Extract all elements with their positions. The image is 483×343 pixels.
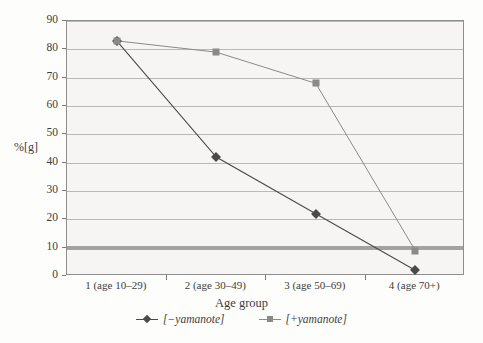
chart-legend: [−yamanote] [+yamanote] [0,313,483,325]
y-axis-label: %[g] [14,140,38,155]
square-marker-icon [259,315,281,324]
series-lines [67,21,465,276]
scan-artifact [8,332,308,340]
x-tick-label-3: 3 (age 50–69) [265,279,365,291]
series-line-2 [117,41,416,251]
y-tick-mark-0 [62,275,66,276]
y-tick-label-20: 20 [26,212,58,223]
y-tick-label-80: 80 [26,42,58,53]
diamond-marker-icon [136,315,158,324]
x-axis-label: Age group [0,296,483,311]
y-tick-label-90: 90 [26,14,58,25]
y-tick-label-40: 40 [26,156,58,167]
legend-item-minus-yamanote: [−yamanote] [136,313,224,325]
chart-figure: %[g] 0102030405060708090 1 (age 10–29)2 … [0,0,483,343]
y-tick-label-50: 50 [26,127,58,138]
y-tick-label-70: 70 [26,71,58,82]
x-tick-mark-2 [265,275,266,280]
x-tick-mark-3 [365,275,366,280]
legend-item-plus-yamanote: [+yamanote] [259,313,347,325]
series-line-1 [117,41,416,270]
x-tick-label-1: 1 (age 10–29) [66,279,166,291]
y-tick-label-60: 60 [26,99,58,110]
x-tick-mark-1 [166,275,167,280]
x-tick-label-4: 4 (age 70+) [365,279,465,291]
x-tick-label-2: 2 (age 30–49) [166,279,266,291]
legend-label-minus-yamanote: [−yamanote] [163,313,224,325]
plot-area [66,20,464,275]
y-tick-label-10: 10 [26,241,58,252]
legend-label-plus-yamanote: [+yamanote] [286,313,347,325]
y-tick-label-0: 0 [26,269,58,280]
y-tick-label-30: 30 [26,184,58,195]
